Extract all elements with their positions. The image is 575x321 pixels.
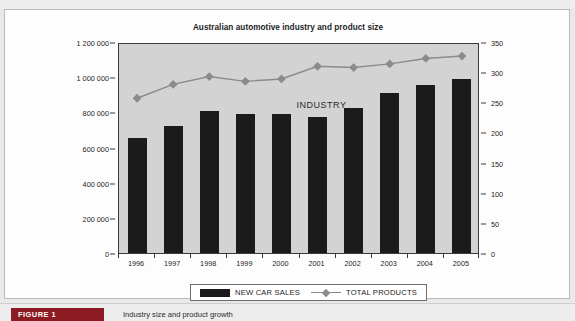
top-cutoff-strip [0, 0, 575, 9]
industry-annotation: INDUSTRY [297, 100, 347, 110]
left-axis-tick-mark [110, 183, 115, 184]
chart-card: Australian automotive industry and produ… [4, 9, 570, 299]
left-axis-tick-mark [110, 218, 115, 219]
x-axis-tick-mark [226, 254, 227, 258]
legend-label-new-car-sales: NEW CAR SALES [235, 288, 300, 297]
left-axis-tick-mark [110, 254, 115, 255]
x-axis-label-1997: 1997 [154, 259, 190, 268]
left-axis-tick-label: 400 000 [83, 179, 109, 188]
right-axis-tick-mark [481, 43, 486, 44]
x-axis-tick-mark [154, 254, 155, 258]
left-axis-tick-label: 600 000 [83, 144, 109, 153]
figure-caption-bar: FIGURE 1 Industry size and product growt… [0, 303, 575, 321]
right-axis-tick-mark [481, 133, 486, 134]
marker-1996 [133, 94, 142, 103]
right-axis-tick-label: 200 [491, 129, 503, 138]
marker-1998 [205, 72, 214, 81]
legend-line-marker-icon [311, 289, 341, 297]
right-axis-tick-mark [481, 193, 486, 194]
left-axis-tick-label: 1 200 000 [77, 39, 109, 48]
marker-1997 [169, 80, 178, 89]
right-axis-tick-label: 150 [491, 159, 503, 168]
plot-area: INDUSTRY [118, 43, 479, 254]
x-axis-tick-mark [262, 254, 263, 258]
marker-2004 [421, 54, 430, 63]
x-axis-tick-mark [190, 254, 191, 258]
left-axis-tick-mark [110, 148, 115, 149]
x-axis-label-2000: 2000 [262, 259, 298, 268]
x-axis-label-1999: 1999 [226, 259, 262, 268]
marker-2002 [349, 63, 358, 72]
right-axis-tick-label: 300 [491, 69, 503, 78]
x-axis-tick-mark [335, 254, 336, 258]
marker-2001 [313, 62, 322, 71]
x-axis-label-2005: 2005 [443, 259, 479, 268]
right-axis-tick-mark [481, 103, 486, 104]
figure-number-badge: FIGURE 1 [11, 308, 104, 321]
right-axis-tick-mark [481, 73, 486, 74]
right-axis-tick-mark [481, 254, 486, 255]
total-products-line [137, 56, 462, 98]
right-axis-tick-label: 100 [491, 189, 503, 198]
marker-2005 [458, 52, 467, 61]
x-axis-tick-mark [118, 254, 119, 258]
left-axis-tick-label: 0 [105, 250, 109, 259]
line-series-total-products [119, 44, 480, 255]
left-axis-tick-label: 800 000 [83, 109, 109, 118]
x-axis-label-1996: 1996 [118, 259, 154, 268]
left-axis-tick-label: 1 000 000 [77, 74, 109, 83]
x-axis-tick-mark [478, 254, 479, 258]
right-axis-tick-label: 250 [491, 99, 503, 108]
legend-item-new-car-sales: NEW CAR SALES [200, 288, 300, 297]
left-axis-tick-mark [110, 43, 115, 44]
right-axis-tick-label: 50 [491, 219, 499, 228]
right-axis-tick-label: 350 [491, 39, 503, 48]
x-axis-tick-mark [299, 254, 300, 258]
marker-1999 [241, 77, 250, 86]
legend-item-total-products: TOTAL PRODUCTS [311, 288, 417, 297]
right-axis-tick-mark [481, 163, 486, 164]
marker-2000 [277, 75, 286, 84]
left-value-axis: 0200 000400 000600 000800 0001 000 0001 … [53, 37, 115, 260]
plot-area-wrapper: INDUSTRY [118, 43, 479, 254]
marker-2003 [385, 60, 394, 69]
chart-legend: NEW CAR SALES TOTAL PRODUCTS [190, 284, 427, 301]
left-axis-tick-mark [110, 78, 115, 79]
x-axis-tick-mark [371, 254, 372, 258]
x-axis-tick-mark [443, 254, 444, 258]
x-axis-label-2001: 2001 [298, 259, 334, 268]
x-axis-label-2002: 2002 [335, 259, 371, 268]
chart-title: Australian automotive industry and produ… [5, 23, 571, 32]
right-axis-tick-label: 0 [491, 250, 495, 259]
legend-bar-swatch-icon [200, 289, 230, 297]
right-axis-tick-mark [481, 223, 486, 224]
x-axis-label-2004: 2004 [407, 259, 443, 268]
category-axis-labels: 1996199719981999200020012002200320042005 [118, 259, 479, 268]
x-axis-label-2003: 2003 [371, 259, 407, 268]
left-axis-tick-mark [110, 113, 115, 114]
figure-caption-text: Industry size and product growth [123, 310, 233, 319]
category-axis: 1996199719981999200020012002200320042005 [118, 254, 479, 276]
left-axis-tick-label: 200 000 [83, 214, 109, 223]
right-value-axis: 050100150200250300350 [481, 37, 531, 260]
legend-label-total-products: TOTAL PRODUCTS [346, 288, 417, 297]
x-axis-label-1998: 1998 [190, 259, 226, 268]
x-axis-tick-mark [407, 254, 408, 258]
